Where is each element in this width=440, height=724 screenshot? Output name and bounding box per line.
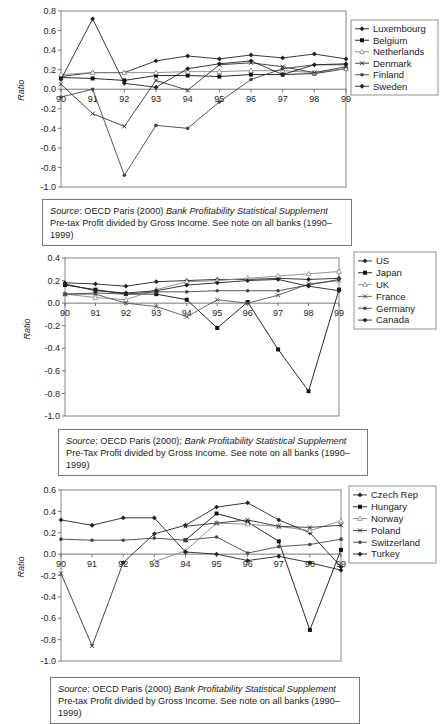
x-tick-label: 93 <box>151 308 161 318</box>
data-point <box>185 66 190 71</box>
data-point <box>214 552 219 557</box>
y-tick-label: -0.2 <box>40 571 56 581</box>
data-point <box>123 173 127 177</box>
y-tick-label: -1.0 <box>40 182 56 192</box>
y-tick-label: 0.6 <box>43 485 56 495</box>
data-point <box>90 538 94 542</box>
x-tick-label: 98 <box>304 308 314 318</box>
series-line <box>61 65 346 175</box>
x-tick-label: 95 <box>212 308 222 318</box>
legend-label: Netherlands <box>373 46 424 57</box>
y-tick-label: 0.4 <box>47 253 60 263</box>
x-tick-label: 90 <box>60 308 70 318</box>
legend-marker <box>358 505 362 509</box>
data-point <box>90 16 95 21</box>
data-point <box>121 515 126 520</box>
y-tick-label: 0.6 <box>43 26 56 36</box>
x-tick-label: 99 <box>334 308 344 318</box>
legend-label: Norway <box>371 513 403 524</box>
data-point <box>154 124 158 128</box>
data-point <box>337 269 342 273</box>
y-axis-label: Ratio <box>16 556 26 577</box>
legend: Czech RepHungaryNorwayPolandSwitzerlandT… <box>349 486 436 563</box>
data-point <box>91 76 95 80</box>
data-point <box>122 124 126 128</box>
series-luxembourg <box>59 52 349 79</box>
data-point <box>277 545 281 549</box>
series-belgium <box>59 67 348 83</box>
plot-area <box>61 490 341 661</box>
data-point <box>245 500 250 505</box>
y-tick-label: -0.4 <box>40 124 56 134</box>
y-tick-label: -1.0 <box>44 411 60 421</box>
legend-label: Finland <box>373 69 404 80</box>
data-point <box>249 73 253 77</box>
y-tick-label: 0.8 <box>43 6 56 16</box>
x-tick-label: 96 <box>246 94 256 104</box>
legend-label: Hungary <box>371 501 407 512</box>
legend: LuxembourgBelgiumNetherlandsDenmarkFinla… <box>351 20 438 95</box>
series-line <box>185 514 341 630</box>
data-point <box>91 112 95 116</box>
series-switzerland <box>59 535 343 555</box>
y-tick-label: -0.8 <box>40 163 56 173</box>
data-point <box>121 538 125 542</box>
y-tick-label: 0.0 <box>43 549 56 559</box>
data-point <box>217 61 222 66</box>
x-tick-label: 98 <box>309 94 319 104</box>
source-text: : OECD Paris (2000) <box>87 684 174 694</box>
x-tick-label: 99 <box>341 94 351 104</box>
legend-label: US <box>376 255 389 266</box>
data-point <box>123 284 128 289</box>
x-tick-label: 95 <box>212 559 222 569</box>
legend-label: Canada <box>376 314 410 325</box>
source-title: Bank Profitability Statistical Supplemen… <box>166 206 328 216</box>
chart-g7: 0.40.20.0-0.2-0.4-0.6-0.8-1.090919293949… <box>0 240 440 475</box>
data-point <box>276 347 280 351</box>
data-point <box>339 518 344 522</box>
x-tick-label: 91 <box>90 308 100 318</box>
data-point <box>306 277 311 282</box>
y-tick-label: 0.4 <box>43 507 56 517</box>
data-point <box>59 95 63 99</box>
data-point <box>93 282 98 287</box>
chart-svg: 0.80.60.40.20.0-0.2-0.4-0.6-0.8-1.090919… <box>0 0 440 200</box>
data-point <box>217 75 221 79</box>
data-point <box>185 54 190 59</box>
x-tick-label: 94 <box>180 559 190 569</box>
series-line <box>61 563 123 646</box>
data-point <box>215 289 219 293</box>
legend-label: France <box>376 291 406 302</box>
legend-label: Turkey <box>371 548 400 559</box>
chart-svg: 0.60.40.20.0-0.2-0.4-0.6-0.8-1.090919293… <box>0 475 440 675</box>
data-point <box>215 512 219 516</box>
legend-label: Japan <box>376 267 402 278</box>
x-tick-label: 92 <box>119 94 129 104</box>
y-tick-label: -0.4 <box>44 343 60 353</box>
series-line <box>61 54 346 76</box>
source-description: Pre-tax Profit divided by Gross Income. … <box>50 217 346 241</box>
legend-label: Sweden <box>373 81 407 92</box>
data-point <box>308 543 312 547</box>
x-tick-label: 91 <box>87 559 97 569</box>
y-tick-label: -0.2 <box>40 104 56 114</box>
legend-label: Germany <box>376 303 415 314</box>
data-point <box>90 523 95 528</box>
series-line <box>185 520 341 527</box>
y-tick-label: -0.6 <box>40 143 56 153</box>
y-tick-label: -0.2 <box>44 321 60 331</box>
data-point <box>276 554 281 559</box>
source-text: : OECD Paris (2000) <box>79 206 166 216</box>
series-line <box>61 537 341 553</box>
source-label: Source <box>58 684 87 694</box>
legend-marker <box>360 38 364 42</box>
data-point <box>217 57 222 62</box>
source-text: : OECD Paris (2000); <box>95 436 184 446</box>
y-tick-label: -1.0 <box>40 656 56 666</box>
data-point <box>215 326 219 330</box>
data-point <box>215 535 219 539</box>
series-japan <box>63 283 341 393</box>
data-point <box>186 127 190 131</box>
plot-area <box>61 11 346 187</box>
series-hungary <box>183 512 343 632</box>
